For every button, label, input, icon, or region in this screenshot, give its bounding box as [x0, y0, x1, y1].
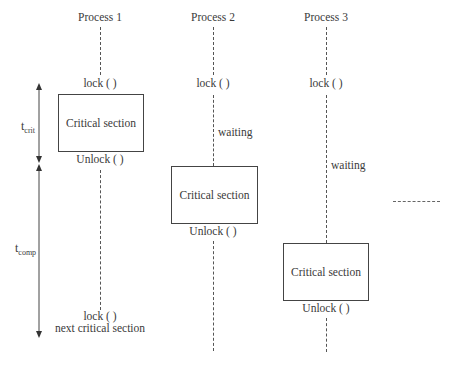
t-crit-arrowhead-down-icon [36, 156, 42, 163]
time-axis-arrows [0, 0, 453, 375]
t-crit-subscript: crit [24, 126, 35, 135]
t-crit-label: tcrit [21, 119, 35, 135]
t-comp-arrowhead-down-icon [36, 331, 42, 338]
t-comp-arrowhead-up-icon [36, 164, 42, 171]
t-crit-arrowhead-up-icon [36, 83, 42, 90]
t-comp-subscript: comp [18, 248, 36, 257]
t-comp-label: tcomp [15, 241, 36, 257]
